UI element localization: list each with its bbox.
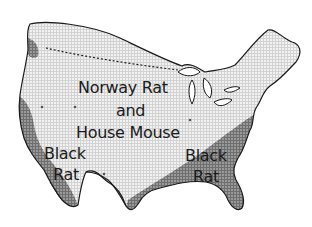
label-east-black: Black: [185, 148, 227, 164]
rodent-distribution-map: Norway Rat and House Mouse Black Rat Bla…: [0, 0, 312, 227]
label-and: and: [116, 103, 145, 119]
label-west-rat: Rat: [53, 167, 79, 183]
label-house-mouse: House Mouse: [76, 125, 180, 141]
label-norway-rat: Norway Rat: [78, 80, 168, 96]
us-map-graphic: [0, 0, 312, 227]
label-east-rat: Rat: [193, 169, 219, 185]
label-west-black: Black: [44, 146, 86, 162]
